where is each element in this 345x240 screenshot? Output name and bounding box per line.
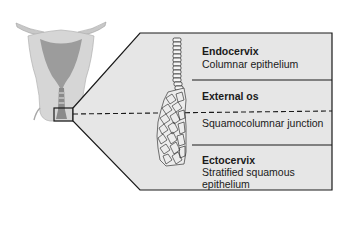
external-os-description: Squamocolumnar junction [202,117,323,129]
external-os-title: External os [202,90,259,102]
ectocervix-description-line2: epithelium [202,178,250,190]
ectocervix-description-line1: Stratified squamous [202,166,295,178]
ectocervix-title: Ectocervix [202,154,255,166]
endocervix-title: Endocervix [202,45,259,57]
endocervix-description: Columnar epithelium [202,58,298,70]
